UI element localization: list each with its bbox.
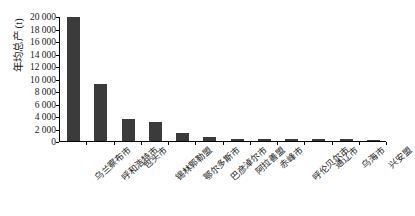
y-tick-label: 18 000	[14, 25, 56, 35]
bar	[285, 139, 298, 141]
y-tick-mark	[56, 55, 59, 56]
bar	[203, 137, 216, 141]
y-tick-mark	[56, 105, 59, 106]
y-tick-label: 8 000	[14, 87, 56, 97]
y-tick-label: 6 000	[14, 100, 56, 110]
y-tick-mark	[56, 30, 59, 31]
y-tick-label: 4 000	[14, 112, 56, 122]
y-tick-mark	[56, 42, 59, 43]
bar	[176, 133, 189, 141]
y-tick-mark	[56, 67, 59, 68]
y-tick-label: 0	[14, 137, 56, 147]
bar	[149, 122, 162, 141]
plot-area	[59, 17, 386, 142]
y-tick-label: 10 000	[14, 75, 56, 85]
bar	[122, 119, 135, 141]
bars-layer	[60, 17, 386, 141]
y-tick-label: 16 000	[14, 37, 56, 47]
y-tick-mark	[56, 130, 59, 131]
y-tick-label: 2 000	[14, 125, 56, 135]
x-tick-label: 包头市	[142, 145, 169, 171]
bar	[312, 139, 325, 141]
y-tick-label: 14 000	[14, 50, 56, 60]
bar	[340, 139, 353, 141]
y-tick-label: 12 000	[14, 62, 56, 72]
y-tick-label: 20 000	[14, 12, 56, 22]
x-tick-label: 兴安盟	[387, 145, 414, 171]
bar	[258, 139, 271, 141]
y-tick-mark	[56, 80, 59, 81]
x-tick-label: 乌海市	[360, 145, 387, 171]
bar	[231, 139, 244, 141]
bar	[67, 17, 80, 141]
bar	[367, 140, 380, 142]
y-tick-mark	[56, 117, 59, 118]
bar	[94, 84, 107, 141]
y-tick-mark	[56, 92, 59, 93]
y-tick-mark	[56, 17, 59, 18]
y-axis-tick-labels: 20 00018 00016 00014 00012 00010 0008 00…	[14, 12, 56, 146]
x-axis-tick-labels: 乌兰察布市呼和浩特市包头市锡林郭勒盟鄂尔多斯市巴彦淖尔市阿拉善盟赤峰市呼伦贝尔市…	[59, 143, 391, 216]
